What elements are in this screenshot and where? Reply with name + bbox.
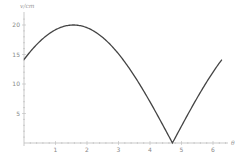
data-line [24,25,222,143]
x-tick-label: 5 [180,146,184,153]
x-tick-label: 6 [211,146,215,153]
axes: 123456 5101520 θ v/cm [12,2,235,153]
y-axis-label: v/cm [20,2,35,9]
x-tick-label: 4 [148,146,152,153]
y-tick-label: 15 [12,51,20,58]
y-tick-label: 10 [12,80,20,87]
y-ticks: 5101520 [12,19,26,137]
y-tick-label: 20 [12,21,20,28]
chart-canvas: 123456 5101520 θ v/cm [0,0,247,159]
x-tick-label: 2 [85,146,89,153]
x-tick-label: 1 [54,146,58,153]
y-tick-label: 5 [16,110,20,117]
x-tick-label: 3 [117,146,121,153]
x-axis-label: θ [231,139,235,146]
